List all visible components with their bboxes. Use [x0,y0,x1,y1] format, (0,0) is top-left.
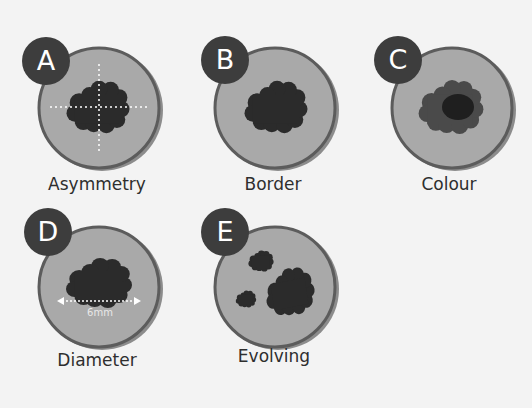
abcde-diagram: A B C D E 6mm Asymmetry Border Colour Di… [0,0,532,408]
label-border: Border [193,174,353,194]
label-asymmetry: Asymmetry [17,174,177,194]
label-evolving: Evolving [194,346,354,366]
badge-letter-a: A [22,44,70,78]
badge-letter-e: E [201,215,249,249]
label-colour: Colour [369,174,529,194]
badge-letter-c: C [374,43,422,77]
label-diameter: Diameter [17,350,177,370]
measurement-label: 6mm [80,306,120,320]
badge-letter-b: B [201,43,249,77]
lesion-dark-area [442,94,474,120]
badge-letter-d: D [24,215,72,249]
